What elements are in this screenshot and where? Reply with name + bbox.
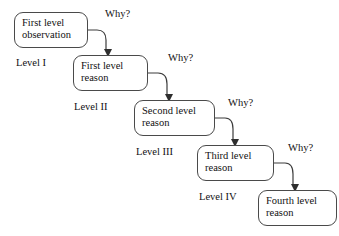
arrow-path-1 [88,30,106,50]
level-label-4: Level IV [199,191,237,202]
connector-arrow-3 [215,118,239,147]
why-label-2: Why? [168,52,193,63]
arrow-path-3 [215,118,233,140]
connector-arrow-1 [88,30,112,57]
connector-arrow-4 [274,163,299,192]
arrow-path-4 [274,163,293,185]
why-label-3: Why? [228,97,253,108]
level-label-1: Level I [16,57,46,68]
level-label-2: Level II [74,101,108,112]
why-label-4: Why? [288,142,313,153]
node-second-level-reason[interactable]: Second level reason [134,100,215,136]
node-first-level-reason[interactable]: First level reason [73,55,148,91]
node-fourth-level-reason[interactable]: Fourth level reason [258,190,337,226]
five-whys-diagram: First level observation First level reas… [0,0,339,236]
level-label-3: Level III [136,146,173,157]
why-label-1: Why? [105,8,130,19]
node-first-level-observation[interactable]: First level observation [14,12,88,48]
node-third-level-reason[interactable]: Third level reason [197,145,274,181]
arrow-path-2 [148,73,167,95]
connector-arrow-2 [148,73,173,102]
